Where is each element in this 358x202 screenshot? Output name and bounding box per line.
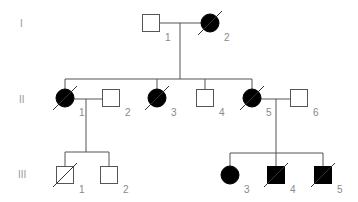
individual-number: 3 [244,184,250,195]
individual-number: 4 [290,184,296,195]
individual-number: 5 [337,184,343,195]
individual-number: 6 [313,107,319,118]
individual-III-1: 1 [53,163,85,195]
individual-number: 1 [165,32,171,43]
unaffected-male-symbol [143,15,160,32]
pedigree-chart: I II III 1212345612345 [0,0,358,202]
individual-II-2: 2 [103,90,132,119]
individual-number: 5 [266,107,272,118]
individual-II-5: 5 [240,86,272,118]
individual-number: 1 [79,107,85,118]
individual-number: 2 [123,184,129,195]
individual-I-1: 1 [143,15,172,44]
individual-III-3: 3 [221,166,250,195]
individual-number: 2 [224,32,230,43]
unaffected-male-symbol [101,167,118,184]
generation-label-II: II [19,94,25,105]
individual-number: 4 [219,107,225,118]
individual-III-5: 5 [311,163,343,195]
individual-number: 2 [125,107,131,118]
unaffected-male-symbol [197,90,214,107]
generation-label-I: I [20,18,23,29]
unaffected-male-symbol [103,90,120,107]
individuals: 1212345612345 [53,11,343,195]
individual-II-6: 6 [291,90,320,119]
generation-label-III: III [18,169,26,180]
individual-I-2: 2 [198,11,230,43]
individual-III-4: 4 [264,163,296,195]
individual-II-3: 3 [145,86,177,118]
individual-number: 1 [79,184,85,195]
individual-III-2: 2 [101,167,130,196]
affected-female-symbol [221,166,239,184]
unaffected-male-symbol [291,90,308,107]
individual-number: 3 [171,107,177,118]
individual-II-4: 4 [197,90,226,119]
individual-II-1: 1 [53,86,85,118]
